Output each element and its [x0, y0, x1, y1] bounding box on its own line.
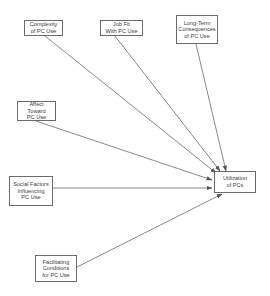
node-affect-toward-pc-use: Affect Toward PC Use	[17, 101, 56, 121]
node-long-term-consequences: Long-Term Consequences of PC Use	[176, 15, 218, 44]
edges-layer	[0, 0, 270, 296]
edge-facilitating-utilization	[77, 194, 222, 267]
edge-longterm-utilization	[196, 44, 226, 171]
diagram-canvas: Complexity of PC Use Job Fit With PC Use…	[0, 0, 270, 296]
node-complexity-of-pc-use: Complexity of PC Use	[24, 20, 63, 36]
edge-affect-utilization	[36, 121, 212, 180]
node-utilization-of-pcs: Utilization of PCs	[214, 171, 256, 193]
node-facilitating-conditions: Facilitating Conditions for PC Use	[35, 255, 77, 282]
node-job-fit-with-pc-use: Job Fit With PC Use	[100, 20, 143, 36]
node-social-factors: Social Factors Influencing PC Use	[9, 176, 53, 206]
edge-jobfit-utilization	[115, 36, 220, 171]
